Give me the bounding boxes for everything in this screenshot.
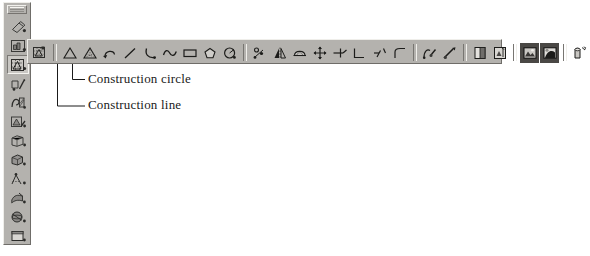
polygon-button[interactable] — [200, 43, 219, 63]
toolbar-separator — [243, 44, 247, 61]
leader-construction-line — [58, 64, 86, 106]
render-preview-button[interactable] — [570, 43, 589, 63]
break-icon — [372, 46, 388, 60]
toolbar-separator — [463, 44, 467, 61]
polyline-button[interactable] — [100, 43, 119, 63]
sidebar-item-insert-block[interactable] — [7, 36, 29, 55]
sidebar-item-render-view[interactable] — [7, 131, 29, 150]
trim-icon — [332, 46, 348, 60]
viewport-button[interactable] — [470, 43, 489, 63]
toolbar-separator — [413, 44, 417, 61]
break-button[interactable] — [370, 43, 389, 63]
dimension-icon — [10, 172, 27, 186]
named-views-icon — [492, 46, 508, 60]
move-button[interactable] — [310, 43, 329, 63]
sidebar-item-solids[interactable] — [7, 207, 29, 226]
polygon-icon — [202, 46, 218, 60]
fillet-button[interactable] — [390, 43, 409, 63]
extend-button[interactable] — [350, 43, 369, 63]
mirror-icon — [272, 46, 288, 60]
trim-button[interactable] — [330, 43, 349, 63]
raster-image-icon — [522, 46, 538, 60]
point-button[interactable] — [250, 43, 269, 63]
annotation-label-construction-circle: Construction circle — [88, 71, 191, 87]
circle-button[interactable] — [220, 43, 239, 63]
spline-icon — [162, 46, 178, 60]
construction-flyout-toolbar[interactable] — [27, 39, 502, 64]
insert-block-icon — [10, 39, 27, 53]
extend-icon — [352, 46, 368, 60]
edit-spline-button[interactable] — [440, 43, 459, 63]
construction-line-icon — [62, 46, 78, 60]
viewport-icon — [10, 229, 27, 243]
sidebar-item-construction-tools[interactable] — [7, 55, 29, 74]
fillet-icon — [392, 46, 408, 60]
move-icon — [312, 46, 328, 60]
eraser-icon — [10, 20, 27, 34]
toolbar-drag-grip[interactable] — [7, 5, 27, 14]
construction-line-button[interactable] — [60, 43, 79, 63]
sidebar-item-erase[interactable] — [7, 17, 29, 36]
sidebar-item-dimension[interactable] — [7, 169, 29, 188]
rectangle-button[interactable] — [180, 43, 199, 63]
sidebar-item-shade[interactable] — [7, 150, 29, 169]
rectangle-icon — [182, 46, 198, 60]
circle-icon — [222, 46, 238, 60]
sidebar-item-hatch[interactable] — [7, 93, 29, 112]
raster-image-button[interactable] — [520, 43, 539, 63]
line-icon — [122, 46, 138, 60]
hatch-icon — [10, 96, 27, 110]
construction-circle-button[interactable] — [80, 43, 99, 63]
line-button[interactable] — [120, 43, 139, 63]
modify-object-icon — [10, 115, 27, 129]
polyline-arrow-icon — [102, 46, 118, 60]
annotation-label-construction-line: Construction line — [88, 97, 181, 113]
shade-icon — [10, 153, 27, 167]
dome-icon — [292, 46, 308, 60]
sidebar-item-modify-object[interactable] — [7, 112, 29, 131]
arc-button[interactable] — [140, 43, 159, 63]
flyout-handle-icon[interactable] — [30, 43, 49, 63]
solids-icon — [10, 210, 27, 224]
viewport-split-icon — [472, 46, 488, 60]
spline-button[interactable] — [160, 43, 179, 63]
leader-construction-circle — [73, 64, 86, 80]
arc-icon — [142, 46, 158, 60]
sidebar-item-surfaces[interactable] — [7, 188, 29, 207]
toolbar-separator — [563, 44, 567, 61]
sidebar-item-viewport[interactable] — [7, 226, 29, 245]
named-views-button[interactable] — [490, 43, 509, 63]
edit-hatch-button[interactable] — [420, 43, 439, 63]
edit-polyline-icon — [10, 77, 27, 91]
toolbar-separator — [513, 44, 517, 61]
image-adjust-button[interactable] — [540, 43, 559, 63]
edit-spline-icon — [442, 46, 458, 60]
image-adjust-icon — [542, 46, 558, 60]
construction-tools-icon — [10, 58, 27, 72]
edit-hatch-icon — [422, 46, 438, 60]
sidebar-item-edit-polyline[interactable] — [7, 74, 29, 93]
toolbar-separator — [53, 44, 57, 61]
construction-circle-icon — [82, 46, 98, 60]
mirror-button[interactable] — [270, 43, 289, 63]
render-preview-icon — [572, 46, 588, 60]
point-array-icon — [252, 46, 268, 60]
render-view-icon — [10, 134, 27, 148]
surfaces-icon — [10, 191, 27, 205]
dome-button[interactable] — [290, 43, 309, 63]
